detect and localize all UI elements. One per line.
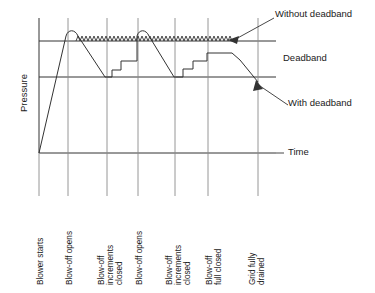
event-label-grid-fully-drained: Grid fully drained bbox=[248, 253, 266, 285]
decay-ramp-1 bbox=[78, 36, 105, 77]
event-label-line: Blow-off opens bbox=[135, 231, 144, 285]
without-deadband-trace bbox=[76, 36, 232, 41]
event-label-blow-off-increments-closed-1: Blow-off increments closed bbox=[97, 245, 125, 285]
event-label-line: Blow-off opens bbox=[65, 231, 74, 285]
decay-ramp-2 bbox=[149, 36, 174, 77]
event-label-line: Blow-off bbox=[165, 245, 174, 285]
annotation-deadband: Deadband bbox=[283, 53, 327, 64]
event-label-line: closed bbox=[115, 245, 124, 285]
event-label-line: Grid fully bbox=[248, 253, 257, 285]
event-label-blow-off-full-closed: Blow-off full closed bbox=[205, 249, 223, 285]
overshoot-peak-2 bbox=[137, 31, 149, 36]
event-label-blow-off-opens-2: Blow-off opens bbox=[135, 231, 144, 285]
event-label-line: increments bbox=[106, 245, 115, 285]
y-axis-title: Pressure bbox=[18, 74, 29, 112]
event-label-blow-off-increments-closed-2: Blow-off increments closed bbox=[165, 245, 193, 285]
final-decay-ramp bbox=[232, 53, 258, 82]
annotation-with-deadband: With deadband bbox=[288, 98, 352, 109]
event-label-line: closed bbox=[183, 245, 192, 285]
staircase-2 bbox=[174, 61, 207, 77]
x-axis-title: Time bbox=[288, 147, 309, 158]
event-label-blower-starts: Blower starts bbox=[36, 238, 45, 285]
final-step-up bbox=[207, 53, 232, 61]
event-label-line: Blower starts bbox=[36, 238, 45, 285]
sawtooth-ripple-path bbox=[76, 36, 232, 41]
annotation-without-deadband: Without deadband bbox=[275, 9, 352, 20]
with-deadband-trace bbox=[39, 31, 258, 153]
without-deadband-leader-line bbox=[234, 18, 274, 40]
event-label-line: drained bbox=[257, 253, 266, 285]
without-deadband-callout bbox=[228, 18, 274, 44]
staircase-1 bbox=[105, 61, 137, 77]
deadband-limit-lines bbox=[39, 41, 276, 77]
event-label-line: Blow-off bbox=[205, 249, 214, 285]
pressure-deadband-diagram: Pressure Time Without deadband Deadband … bbox=[0, 0, 375, 293]
event-label-blow-off-opens-1: Blow-off opens bbox=[65, 231, 74, 285]
event-label-line: increments bbox=[174, 245, 183, 285]
event-label-line: Blow-off bbox=[97, 245, 106, 285]
with-deadband-leader-line bbox=[260, 86, 288, 105]
pressure-rise-segment bbox=[39, 36, 66, 153]
event-grid-lines bbox=[39, 18, 258, 196]
event-label-line: full closed bbox=[214, 249, 223, 285]
